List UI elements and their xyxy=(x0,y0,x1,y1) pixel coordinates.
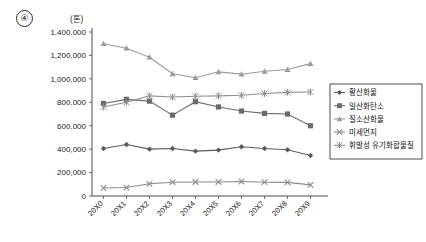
x-axis-ticks: 20X020X120X220X320X420X520X620X720X820X9 xyxy=(86,196,312,218)
legend-item-label: 휘발성 유기화합물질 xyxy=(349,141,414,150)
legend-item-label: 일산화탄소 xyxy=(349,101,384,111)
y-axis-tick-label: 1,400,000 xyxy=(50,28,86,37)
chart-svg: 0200,000400,000600,000800,0001,000,0001,… xyxy=(0,0,426,242)
data-point-square xyxy=(147,99,152,104)
data-point-diamond xyxy=(147,146,152,151)
legend-item-label: 황산화물 xyxy=(349,87,377,97)
series-1 xyxy=(101,97,313,129)
chart-legend: 황산화물일산화탄소질소산화물미세먼지휘발성 유기화합물질 xyxy=(330,84,422,159)
y-axis-tick-label: 800,000 xyxy=(57,98,86,107)
data-point-triangle xyxy=(308,61,314,66)
y-axis-tick-label: 200,000 xyxy=(57,168,86,177)
data-point-diamond xyxy=(124,142,129,147)
x-axis-tick-label: 20X9 xyxy=(293,199,312,218)
x-axis-tick-label: 20X5 xyxy=(201,199,220,218)
series-layer xyxy=(101,41,314,191)
data-point-square xyxy=(285,111,290,116)
x-axis-tick-label: 20X6 xyxy=(224,199,243,218)
x-axis-tick-label: 20X8 xyxy=(270,199,289,218)
x-axis-tick-label: 20X1 xyxy=(109,199,128,218)
data-point-diamond xyxy=(262,146,267,151)
legend-item-label: 미세먼지 xyxy=(349,127,377,137)
data-point-diamond xyxy=(308,153,313,158)
data-point-square xyxy=(262,111,267,116)
series-3 xyxy=(101,179,314,191)
data-point-diamond xyxy=(170,146,175,151)
chart-figure: ④ (톤) 0200,000400,000600,000800,0001,000… xyxy=(0,0,426,242)
data-point-square xyxy=(239,108,244,113)
data-point-square xyxy=(193,99,198,104)
data-point-diamond xyxy=(193,148,198,153)
data-point-square xyxy=(216,104,221,109)
series-0 xyxy=(101,142,313,159)
y-axis-tick-label: 1,200,000 xyxy=(50,51,86,60)
y-axis-tick-label: 0 xyxy=(82,192,87,201)
y-axis-tick-label: 600,000 xyxy=(57,122,86,131)
data-point-diamond xyxy=(216,147,221,152)
data-point-diamond xyxy=(239,144,244,149)
x-axis-tick-label: 20X3 xyxy=(155,199,174,218)
x-axis-tick-label: 20X7 xyxy=(247,199,266,218)
data-point-triangle xyxy=(101,41,107,46)
data-point-diamond xyxy=(285,147,290,152)
x-axis-tick-label: 20X4 xyxy=(178,199,197,218)
data-point-diamond xyxy=(101,146,106,151)
x-axis-tick-label: 20X0 xyxy=(86,199,105,218)
data-point-square xyxy=(337,103,342,108)
y-axis-tick-label: 1,000,000 xyxy=(50,75,86,84)
plot-area: 0200,000400,000600,000800,0001,000,0001,… xyxy=(0,0,426,242)
x-axis-tick-label: 20X2 xyxy=(132,199,151,218)
data-point-square xyxy=(308,123,313,128)
y-axis-ticks: 0200,000400,000600,000800,0001,000,0001,… xyxy=(50,28,92,201)
y-axis-tick-label: 400,000 xyxy=(57,145,86,154)
series-2 xyxy=(101,41,314,80)
legend-item-label: 질소산화물 xyxy=(349,114,384,124)
data-point-square xyxy=(170,113,175,118)
